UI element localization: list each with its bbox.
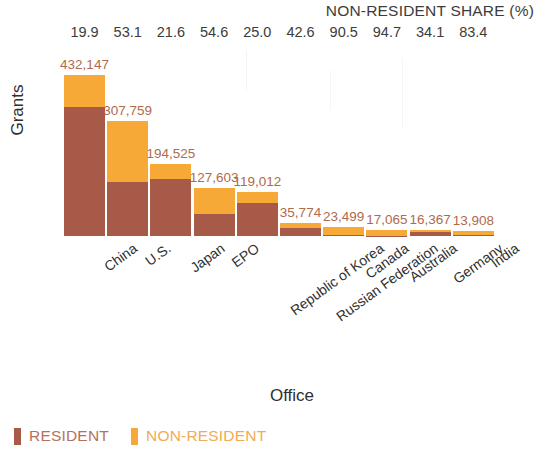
legend-swatch-nonresident-icon xyxy=(131,428,138,445)
bar-segment-resident xyxy=(237,203,278,236)
x-axis-label-japan: Japan xyxy=(187,240,227,275)
bar-value-label: 194,525 xyxy=(146,146,195,161)
bar-value-label: 119,012 xyxy=(233,174,281,189)
bar-segment-resident xyxy=(280,228,321,236)
bar-stack xyxy=(64,75,105,236)
bar-stack xyxy=(280,223,321,236)
bar-value-label: 23,499 xyxy=(323,209,364,224)
bar-australia[interactable]: 17,065 xyxy=(366,0,407,236)
x-axis-label-china: China xyxy=(101,240,140,274)
bar-value-label: 307,759 xyxy=(103,103,152,118)
bar-value-label: 127,603 xyxy=(190,170,239,185)
bar-value-label: 17,065 xyxy=(366,212,407,227)
bar-value-label: 16,367 xyxy=(409,212,450,227)
legend-swatch-resident-icon xyxy=(14,428,21,445)
bar-segment-resident xyxy=(107,182,148,236)
bar-segment-nonresident xyxy=(237,192,278,203)
legend-label-resident: RESIDENT xyxy=(29,427,109,445)
bar-segment-nonresident xyxy=(194,188,235,214)
bar-value-label: 432,147 xyxy=(60,57,109,72)
legend-label-nonresident: NON-RESIDENT xyxy=(146,427,266,445)
bar-segment-nonresident xyxy=(150,164,191,180)
grants-by-office-chart: NON-RESIDENT SHARE (%) 19.953.121.654.62… xyxy=(0,0,540,457)
legend-item-nonresident[interactable]: NON-RESIDENT xyxy=(131,427,266,445)
bar-republic-of-korea[interactable]: 119,012 xyxy=(237,0,278,236)
bar-segment-resident xyxy=(194,214,235,236)
bar-value-label: 35,774 xyxy=(280,205,321,220)
bar-stack xyxy=(237,192,278,236)
bar-u-s-[interactable]: 307,759 xyxy=(107,0,148,236)
bar-stack xyxy=(107,121,148,236)
bar-segment-nonresident xyxy=(107,121,148,182)
bar-japan[interactable]: 194,525 xyxy=(150,0,191,236)
bar-china[interactable]: 432,147 xyxy=(64,0,105,236)
bar-india[interactable]: 13,908 xyxy=(453,0,494,236)
bar-russian-federation[interactable]: 35,774 xyxy=(280,0,321,236)
x-axis-title-text: Office xyxy=(270,386,314,405)
bar-canada[interactable]: 23,499 xyxy=(323,0,364,236)
bar-segment-nonresident xyxy=(323,227,364,235)
x-axis-category-labels: ChinaU.S.JapanEPORepublic of KoreaRussia… xyxy=(0,236,540,356)
plot-area: 432,147307,759194,525127,603119,01235,77… xyxy=(0,0,540,236)
chart-legend: RESIDENT NON-RESIDENT xyxy=(14,427,266,445)
legend-item-resident[interactable]: RESIDENT xyxy=(14,427,109,445)
bar-stack xyxy=(150,164,191,236)
bar-segment-resident xyxy=(64,107,105,236)
x-axis-label-u-s-: U.S. xyxy=(142,240,173,269)
bar-germany[interactable]: 16,367 xyxy=(410,0,451,236)
bar-epo[interactable]: 127,603 xyxy=(194,0,235,236)
x-axis-label-epo: EPO xyxy=(229,240,262,270)
bar-segment-nonresident xyxy=(64,75,105,107)
x-axis-title: Office xyxy=(0,386,540,406)
bar-stack xyxy=(194,188,235,236)
bar-segment-resident xyxy=(150,179,191,236)
bar-value-label: 13,908 xyxy=(453,213,494,228)
bar-stack xyxy=(323,227,364,236)
